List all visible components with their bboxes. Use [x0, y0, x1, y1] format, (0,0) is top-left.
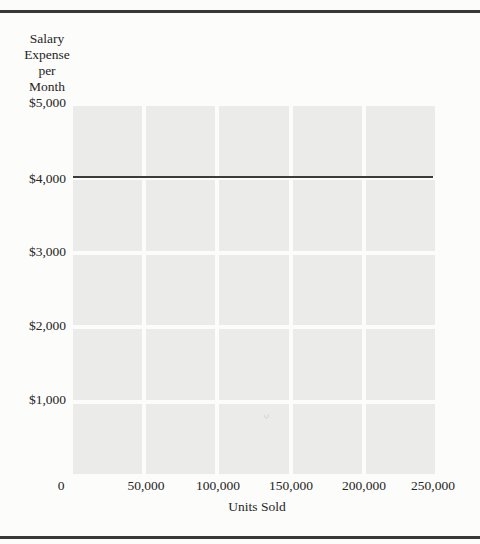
scanned-chart-page: Salary Expense per Month $5,000 $4,000 $… — [0, 0, 480, 544]
grid-cell — [293, 180, 362, 250]
top-rule-divider — [0, 10, 480, 13]
grid-cell — [219, 329, 288, 399]
grid-cell — [366, 255, 435, 325]
grid-cell — [366, 106, 435, 176]
y-axis-title-line: Expense — [16, 47, 78, 63]
grid-cell — [293, 329, 362, 399]
y-axis-title: Salary Expense per Month — [16, 31, 78, 95]
grid-cell — [73, 329, 142, 399]
plot-area-grid — [73, 106, 435, 474]
scan-artifact-mark — [262, 412, 272, 424]
salary-expense-data-line — [73, 176, 433, 178]
origin-tick-label: 0 — [58, 478, 65, 494]
x-axis-title: Units Sold — [228, 499, 285, 515]
y-tick-label-2000: $2,000 — [10, 318, 66, 334]
x-tick-label-50000: 50,000 — [127, 478, 164, 494]
grid-cell — [146, 329, 215, 399]
grid-cell — [366, 404, 435, 474]
grid-cell — [146, 404, 215, 474]
x-tick-label-100000: 100,000 — [196, 478, 240, 494]
y-tick-label-5000: $5,000 — [10, 95, 66, 111]
grid-cell — [219, 255, 288, 325]
y-axis-title-line: per — [16, 63, 78, 79]
grid-cell — [293, 106, 362, 176]
grid-cell — [293, 255, 362, 325]
y-tick-label-1000: $1,000 — [10, 392, 66, 408]
x-tick-label-150000: 150,000 — [269, 478, 313, 494]
grid-cell — [219, 404, 288, 474]
grid-cell — [146, 255, 215, 325]
y-axis-title-line: Month — [16, 79, 78, 95]
x-tick-label-200000: 200,000 — [342, 478, 386, 494]
grid-cell — [293, 404, 362, 474]
grid-cell — [219, 106, 288, 176]
grid-cell — [73, 255, 142, 325]
grid-cell — [366, 180, 435, 250]
y-tick-label-4000: $4,000 — [10, 171, 66, 187]
grid-cell — [366, 329, 435, 399]
y-axis-title-line: Salary — [16, 31, 78, 47]
grid-cell — [73, 404, 142, 474]
grid-cell — [219, 180, 288, 250]
grid-cell — [73, 106, 142, 176]
grid-cell — [73, 180, 142, 250]
x-tick-label-250000: 250,000 — [411, 478, 455, 494]
bottom-rule-divider — [0, 536, 480, 539]
y-tick-label-3000: $3,000 — [10, 244, 66, 260]
grid-cell — [146, 106, 215, 176]
grid-cell — [146, 180, 215, 250]
